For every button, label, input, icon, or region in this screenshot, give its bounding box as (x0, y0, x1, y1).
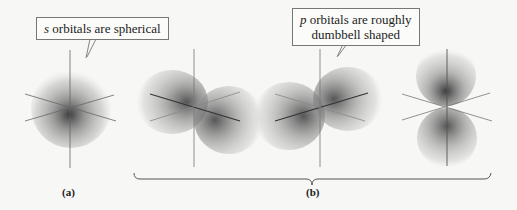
panel-b-label: (b) (306, 186, 319, 198)
s-orbital (25, 50, 116, 168)
p-orbital-callout: p orbitals are roughly dumbbell shaped (292, 8, 420, 46)
s-orbital-callout: s orbitals are spherical (36, 17, 169, 40)
p-orbital-3 (402, 46, 492, 168)
callout-line-1: p orbitals are roughly (300, 12, 412, 27)
p-orbital-1 (136, 49, 264, 167)
brace (134, 173, 491, 185)
p-orbital-2 (253, 49, 383, 167)
callout-text: orbitals are spherical (49, 21, 161, 36)
callout-text: orbitals are roughly (307, 12, 412, 27)
callout-line-2: dumbbell shaped (300, 27, 412, 42)
panel-a-label: (a) (62, 186, 75, 198)
